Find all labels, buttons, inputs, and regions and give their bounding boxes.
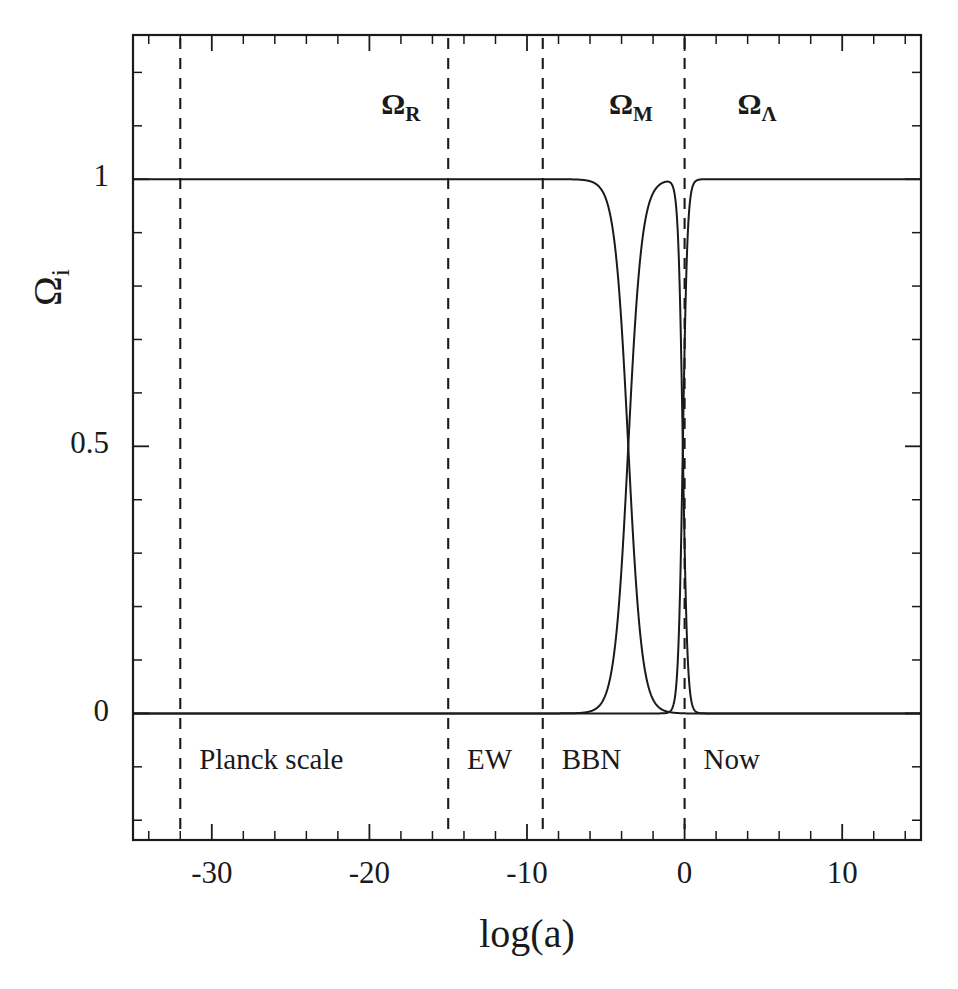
x-tick-label: 0 <box>677 855 693 890</box>
annotations: Planck scaleEWBBNNowΩRΩMΩΛlog(a)Ωi <box>25 87 776 956</box>
x-tick-label: -10 <box>506 855 547 890</box>
epoch-label-now: Now <box>704 743 760 775</box>
epoch-label-bbn: BBN <box>562 743 622 775</box>
density-curves <box>133 179 921 713</box>
plot-frame <box>133 35 921 840</box>
curve-omega-r <box>133 179 921 713</box>
y-tick-label: 0.5 <box>70 425 109 460</box>
y-axis-title: Ωi <box>25 269 75 306</box>
axis-ticks <box>133 35 921 840</box>
x-tick-label: -20 <box>349 855 390 890</box>
region-label-M: ΩM <box>609 87 653 126</box>
curve-omega-m <box>133 182 921 714</box>
omega-evolution-chart: -30-20-1001000.51 Planck scaleEWBBNNowΩR… <box>0 0 958 989</box>
epoch-label-ew: EW <box>467 743 513 775</box>
figure-container: -30-20-1001000.51 Planck scaleEWBBNNowΩR… <box>0 0 958 989</box>
region-label-Λ: ΩΛ <box>738 87 777 126</box>
x-axis-title: log(a) <box>479 911 575 956</box>
x-tick-label: 10 <box>827 855 858 890</box>
curve-omega-lambda <box>133 179 921 713</box>
y-tick-label: 1 <box>94 158 110 193</box>
axis-frame <box>133 35 921 840</box>
epoch-marker-lines <box>180 38 684 838</box>
epoch-label-planck-scale: Planck scale <box>199 743 343 775</box>
x-tick-label: -30 <box>191 855 232 890</box>
y-tick-label: 0 <box>94 693 110 728</box>
region-label-R: ΩR <box>381 87 421 126</box>
axis-tick-labels: -30-20-1001000.51 <box>70 158 857 890</box>
